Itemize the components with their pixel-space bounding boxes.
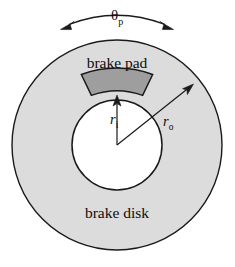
theta-p-label: θp <box>111 7 123 27</box>
brake-pad-label: brake pad <box>87 54 148 71</box>
theta-subscript: p <box>118 16 123 27</box>
theta-arc-right-arrowhead <box>160 21 174 29</box>
brake-diagram-canvas: θp brake pad ri ro brake disk <box>0 0 235 267</box>
inner-radius-subscript: i <box>116 120 119 130</box>
theta-symbol: θ <box>111 7 118 23</box>
outer-radius-subscript: o <box>169 122 174 132</box>
brake-diagram-figure: θp brake pad ri ro brake disk <box>0 0 235 267</box>
brake-disk-label: brake disk <box>85 204 149 221</box>
theta-arc-left-arrowhead <box>61 21 75 29</box>
brake-pad-sector <box>81 68 152 95</box>
